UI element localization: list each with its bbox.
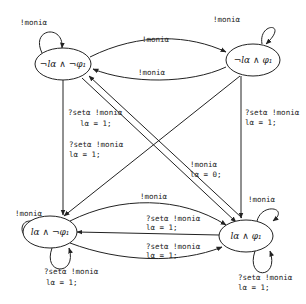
state-s3: lα ∧ ¬φ₁ <box>23 216 77 248</box>
edge-label-s3-s4-lower-b: lα = 1; <box>146 251 178 260</box>
edge-label-s4-self-bottom-a: ?setα !moniα <box>238 273 293 282</box>
state-machine-diagram: !moniα !moniα !moniα !moniα ?setα !moniα… <box>0 0 306 304</box>
state-label-s2: ¬lα ∧ φ₁ <box>234 55 273 65</box>
state-s1: ¬lα ∧ ¬φ₁ <box>35 48 91 80</box>
state-label-s1: ¬lα ∧ ¬φ₁ <box>40 59 86 69</box>
edge-label-s3-self-bottom-a: ?setα !moniα <box>44 267 99 276</box>
edge-label-s4-s3-top: !moniα <box>140 192 168 201</box>
edge-s4-self-bottom <box>253 251 272 273</box>
edge-label-s3-s4-lower-a: ?setα !moniα <box>146 242 201 251</box>
edge-label-s2-s3-a: ?setα !moniα <box>68 108 123 117</box>
edge-label-s3-s4-upper-b: lα = 1; <box>146 223 178 232</box>
edge-label-s3-s4-upper-a: ?setα !moniα <box>146 214 201 223</box>
state-s4: lα ∧ φ₁ <box>219 220 273 252</box>
edge-label-s2-s3-b: lα = 1; <box>80 119 112 128</box>
edge-label-s4-self-bottom-b: lα = 1; <box>238 283 270 292</box>
edge-s4-s3-middle <box>77 232 219 235</box>
edge-s4-self-right <box>257 209 278 221</box>
edge-label-s4-self-right: !moniα <box>248 195 276 204</box>
edge-label-s2-s4-a: ?setα !moniα <box>245 108 300 117</box>
edge-s2-self <box>262 28 275 45</box>
edge-label-s1-s3-b: lα = 1; <box>69 150 101 159</box>
edge-label-s2-s1: !moniα <box>138 68 166 77</box>
state-s2: ¬lα ∧ φ₁ <box>226 44 280 76</box>
edge-label-s2-s4-b: lα = 1; <box>245 118 277 127</box>
edge-label-s3-self-bottom-b: lα = 1; <box>46 278 78 287</box>
edge-label-s1-s3-a: ?setα !moniα <box>69 140 124 149</box>
edge-label-s1-self: !moniα <box>20 18 48 27</box>
state-label-s3: lα ∧ ¬φ₁ <box>31 227 70 237</box>
state-label-s4: lα ∧ φ₁ <box>230 231 261 241</box>
edge-label-s2-self: !moniα <box>213 15 241 24</box>
edge-label-s3-self-left: !moniα <box>15 209 43 218</box>
edge-label-s4-s1-b: lα = 0; <box>190 170 222 179</box>
edge-label-s1-s2: !moniα <box>142 35 170 44</box>
edge-s3-self-bottom <box>50 248 70 269</box>
edge-label-s4-s1-a: !moniα <box>190 160 218 169</box>
